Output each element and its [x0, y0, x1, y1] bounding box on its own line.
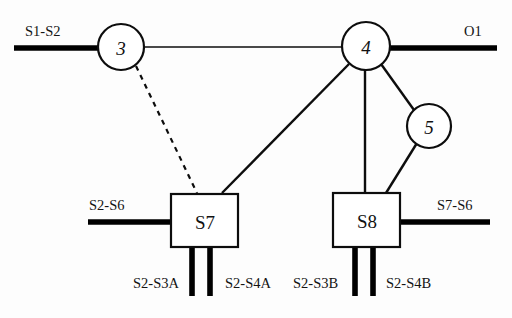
node-label-5: 5: [424, 117, 434, 138]
terminal-label-s2-s3a: S2-S3A: [133, 275, 179, 291]
link-node4-s7: [222, 64, 349, 193]
terminal-label-s2-s3b: S2-S3B: [293, 275, 338, 291]
link-node4-node5: [381, 64, 414, 110]
node-label-s8: S8: [357, 211, 377, 232]
terminal-label-s2-s4b: S2-S4B: [386, 275, 431, 291]
link-node5-s8: [386, 143, 417, 193]
node-label-s7: S7: [195, 212, 215, 233]
terminal-label-s7-s6: S7-S6: [437, 197, 472, 213]
node-label-4: 4: [361, 37, 371, 58]
terminal-label-o1: O1: [464, 23, 482, 39]
link-node3-s7-dashed: [136, 66, 197, 193]
node-label-3: 3: [115, 38, 126, 59]
diagram-svg: 3 4 5 S7 S8 S1-S2 O1 S2-S6 S7-S6 S2-S3A …: [0, 0, 512, 318]
terminal-label-s2-s4a: S2-S4A: [225, 275, 271, 291]
terminal-label-s2-s6: S2-S6: [89, 197, 124, 213]
network-diagram-canvas: 3 4 5 S7 S8 S1-S2 O1 S2-S6 S7-S6 S2-S3A …: [0, 0, 512, 318]
terminal-label-s1-s2: S1-S2: [25, 23, 60, 39]
